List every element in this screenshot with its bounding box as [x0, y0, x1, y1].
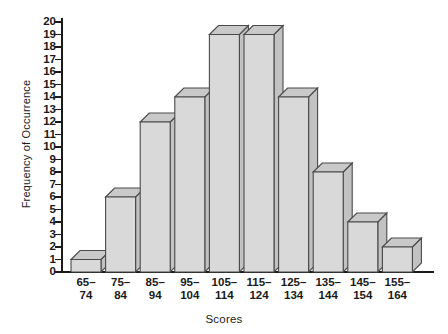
bar-front-face	[348, 222, 378, 272]
bar-front-face	[209, 35, 239, 273]
bar-front-face	[106, 197, 136, 272]
x-axis-tick-label-line: 155–	[376, 276, 418, 289]
bar-front-face	[175, 97, 205, 272]
x-axis-tick-label: 155–164	[376, 276, 418, 302]
histogram-chart: Frequency of Occurrence 2019181716151413…	[0, 0, 448, 334]
bar-front-face	[71, 260, 101, 273]
bar-front-face	[279, 97, 309, 272]
histogram-bar	[175, 88, 214, 272]
histogram-bar	[382, 238, 421, 272]
histogram-bar	[71, 251, 110, 273]
bar-front-face	[313, 172, 343, 272]
bar-front-face	[382, 247, 412, 272]
histogram-bar	[140, 113, 179, 272]
histogram-bar	[106, 188, 145, 272]
histogram-bar	[348, 213, 387, 272]
x-axis-tick-labels: 65–7475–8485–9495–104105–114115–124125–1…	[0, 276, 448, 316]
bar-front-face	[244, 35, 274, 273]
histogram-bar	[313, 163, 352, 272]
histogram-bar	[244, 26, 283, 273]
histogram-bar	[279, 88, 318, 272]
histogram-bar	[209, 26, 248, 273]
bar-front-face	[140, 122, 170, 272]
x-axis-title: Scores	[0, 313, 448, 325]
x-axis-tick-label-line: 164	[376, 289, 418, 302]
